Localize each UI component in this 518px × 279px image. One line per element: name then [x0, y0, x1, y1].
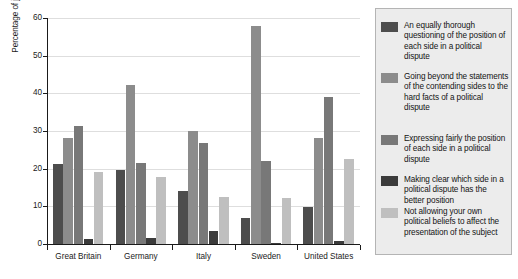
legend-swatch-icon	[381, 135, 398, 145]
legend: An equally thorough questioning of the p…	[375, 8, 512, 255]
y-tick-label: 30	[33, 126, 42, 135]
bar-group	[235, 18, 298, 244]
y-tick-label: 50	[33, 51, 42, 60]
bar	[53, 164, 63, 244]
x-tick-label: Italy	[172, 252, 235, 261]
bar	[251, 26, 261, 244]
y-tick-label: 40	[33, 88, 42, 97]
x-tick-label: Sweden	[235, 252, 298, 261]
legend-swatch-icon	[381, 208, 398, 218]
legend-item[interactable]: Making clear which side in a political d…	[381, 175, 509, 206]
bar	[178, 191, 188, 244]
bar	[199, 143, 209, 244]
y-axis-title: Percentage of journalists responding	[11, 0, 20, 68]
bar	[219, 197, 229, 244]
legend-swatch-icon	[381, 176, 398, 186]
bar	[241, 218, 251, 244]
x-tick-mark	[172, 245, 173, 250]
bar	[209, 231, 219, 244]
y-tick-label: 60	[33, 13, 42, 22]
x-axis-line	[47, 244, 360, 245]
bar-group	[297, 18, 360, 244]
legend-item[interactable]: Going beyond the statements of the conte…	[381, 72, 509, 113]
legend-item[interactable]: Not allowing your own political beliefs …	[381, 207, 509, 238]
legend-item[interactable]: An equally thorough questioning of the p…	[381, 21, 509, 62]
bar-group	[110, 18, 173, 244]
bar	[84, 239, 94, 244]
legend-item-label: Not allowing your own political beliefs …	[404, 207, 509, 238]
legend-item-label: Going beyond the statements of the conte…	[404, 72, 509, 113]
bar	[334, 241, 344, 244]
legend-swatch-icon	[381, 73, 398, 83]
bar-group	[47, 18, 110, 244]
bar-chart-figure: Percentage of journalists responding 010…	[0, 0, 518, 279]
x-tick-label: Great Britain	[47, 252, 110, 261]
legend-item[interactable]: Expressing fairly the position of each s…	[381, 134, 509, 165]
bar	[136, 163, 146, 244]
bar	[94, 172, 104, 244]
bar	[344, 159, 354, 244]
bar	[303, 207, 313, 244]
y-tick-label: 20	[33, 164, 42, 173]
bar	[63, 138, 73, 244]
bar	[146, 238, 156, 244]
x-tick-mark	[110, 245, 111, 250]
x-tick-mark	[47, 245, 48, 250]
bar	[282, 198, 292, 244]
bar	[271, 243, 281, 245]
y-tick-label: 10	[33, 201, 42, 210]
legend-item-label: Expressing fairly the position of each s…	[404, 134, 509, 165]
x-tick-mark	[235, 245, 236, 250]
legend-item-label: Making clear which side in a political d…	[404, 175, 509, 206]
bar	[156, 177, 166, 244]
legend-item-label: An equally thorough questioning of the p…	[404, 21, 509, 62]
legend-swatch-icon	[381, 22, 398, 32]
bar	[314, 138, 324, 244]
x-tick-label: United States	[297, 252, 360, 261]
bar-group	[172, 18, 235, 244]
bar	[126, 85, 136, 244]
y-tick-label: 0	[37, 239, 42, 248]
bar	[116, 170, 126, 244]
x-tick-mark	[360, 245, 361, 250]
plot-area: Percentage of journalists responding 010…	[47, 18, 360, 244]
bar	[188, 131, 198, 244]
bar	[324, 97, 334, 244]
x-tick-label: Germany	[110, 252, 173, 261]
x-tick-mark	[297, 245, 298, 250]
bar	[261, 161, 271, 244]
bars-layer	[47, 18, 360, 244]
bar	[74, 126, 84, 244]
